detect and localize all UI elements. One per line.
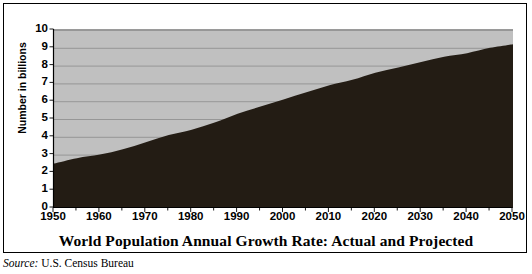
x-tick-label: 1970 (132, 211, 158, 223)
y-tick-label: 2 (42, 166, 48, 178)
y-tick-label: 7 (42, 77, 48, 89)
x-tick-label: 2030 (407, 211, 433, 223)
x-tick-label: 1950 (40, 211, 66, 223)
chart-frame: Number in billions 012345678910 19501960… (3, 3, 527, 253)
chart-title: World Population Annual Growth Rate: Act… (4, 232, 528, 250)
y-tick-label: 6 (42, 94, 48, 106)
y-tick-label: 3 (42, 148, 48, 160)
x-tick-label: 1980 (178, 211, 204, 223)
x-tick-label: 2040 (453, 211, 479, 223)
x-tick-label: 2010 (316, 211, 342, 223)
y-tick-label: 9 (42, 41, 48, 53)
y-axis-tick-labels: 012345678910 (30, 29, 48, 207)
x-axis-tick-labels: 1950196019701980199020002010202020302040… (53, 211, 512, 227)
plot-area (53, 29, 513, 208)
x-tick-label: 1960 (86, 211, 112, 223)
area-fill (54, 44, 513, 208)
y-axis-title: Number in billions (16, 18, 28, 158)
x-tick-label: 2000 (270, 211, 296, 223)
area-series-world-population (54, 44, 513, 208)
x-tick-label: 2050 (499, 211, 525, 223)
y-tick-label: 10 (35, 23, 48, 35)
source-label: Source: (3, 257, 38, 269)
y-tick-label: 1 (42, 183, 48, 195)
y-tick-label: 5 (42, 112, 48, 124)
source-note: Source: U.S. Census Bureau (3, 257, 134, 269)
source-value: U.S. Census Bureau (41, 257, 134, 269)
plot-svg (54, 30, 513, 208)
figure-container: Number in billions 012345678910 19501960… (0, 0, 532, 274)
x-tick-label: 2020 (362, 211, 388, 223)
x-tick-label: 1990 (224, 211, 250, 223)
y-tick-label: 4 (42, 130, 48, 142)
y-tick-label: 8 (42, 59, 48, 71)
